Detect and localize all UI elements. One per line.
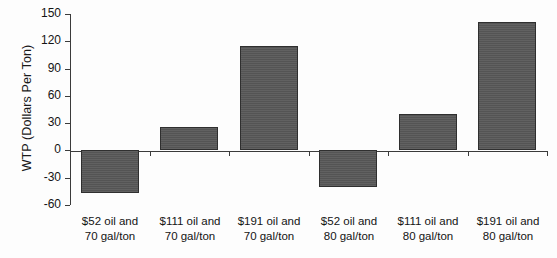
x-axis-label-line-1: $191 oil and — [229, 214, 309, 229]
x-axis-label: $191 oil and80 gal/ton — [468, 214, 548, 243]
y-tick-label: 0 — [54, 142, 61, 156]
y-axis-title: WTP (Dollars Per Ton) — [14, 0, 40, 215]
y-tick-label: -60 — [44, 197, 61, 211]
y-tick-mark — [65, 123, 70, 124]
y-tick-label: 90 — [48, 61, 61, 75]
plot-area: 1501209060300-30-60 — [70, 14, 547, 205]
x-tick-mark — [388, 151, 389, 156]
y-tick-mark — [65, 41, 70, 42]
bar — [399, 114, 457, 150]
x-axis-label-line-2: 70 gal/ton — [70, 229, 150, 244]
bar-chart: WTP (Dollars Per Ton) 1501209060300-30-6… — [0, 0, 557, 258]
x-axis-label-line-2: 80 gal/ton — [309, 229, 389, 244]
x-axis-label: $52 oil and80 gal/ton — [309, 214, 389, 243]
x-tick-mark — [547, 151, 548, 156]
x-axis-label-line-1: $191 oil and — [468, 214, 548, 229]
x-tick-mark — [150, 151, 151, 156]
x-axis-label-line-2: 70 gal/ton — [229, 229, 309, 244]
y-tick-label: 150 — [41, 6, 61, 20]
y-tick-label: -30 — [44, 170, 61, 184]
x-axis-label-line-1: $111 oil and — [388, 214, 468, 229]
x-axis-label: $111 oil and80 gal/ton — [388, 214, 468, 243]
x-axis-label-line-2: 80 gal/ton — [468, 229, 548, 244]
y-tick-mark — [65, 178, 70, 179]
x-axis-label: $52 oil and70 gal/ton — [70, 214, 150, 243]
x-axis-label: $111 oil and70 gal/ton — [150, 214, 230, 243]
y-tick-mark — [65, 69, 70, 70]
x-axis-label-line-1: $52 oil and — [309, 214, 389, 229]
bar — [240, 46, 298, 151]
bar — [319, 150, 377, 186]
x-axis-label-line-1: $52 oil and — [70, 214, 150, 229]
x-axis-label-line-1: $111 oil and — [150, 214, 230, 229]
x-tick-mark — [229, 151, 230, 156]
x-tick-mark — [309, 151, 310, 156]
y-tick-mark — [65, 96, 70, 97]
y-tick-label: 30 — [48, 115, 61, 129]
y-tick-mark — [65, 14, 70, 15]
x-tick-mark — [468, 151, 469, 156]
x-axis-label: $191 oil and70 gal/ton — [229, 214, 309, 243]
y-tick-mark — [65, 205, 70, 206]
bar — [160, 127, 218, 151]
y-axis-spine — [70, 14, 71, 205]
x-tick-mark — [70, 151, 71, 156]
y-axis-title-text: WTP (Dollars Per Ton) — [20, 44, 34, 171]
x-axis-labels: $52 oil and70 gal/ton$111 oil and70 gal/… — [70, 214, 547, 258]
x-axis-label-line-2: 80 gal/ton — [388, 229, 468, 244]
y-tick-label: 60 — [48, 88, 61, 102]
bar — [478, 22, 536, 150]
x-axis-label-line-2: 70 gal/ton — [150, 229, 230, 244]
y-tick-label: 120 — [41, 33, 61, 47]
bar — [81, 150, 139, 193]
